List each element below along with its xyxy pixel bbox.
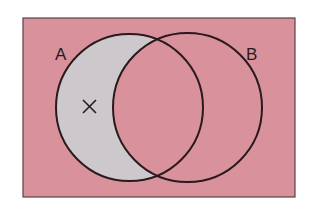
venn-diagram: A B <box>0 0 316 214</box>
set-a-label: A <box>55 45 67 64</box>
set-b-label: B <box>246 45 257 64</box>
